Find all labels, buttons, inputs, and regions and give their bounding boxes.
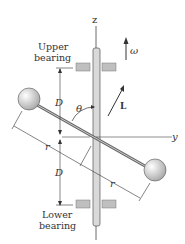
lower-D-label: D xyxy=(54,167,63,178)
lower-D-arrow-top xyxy=(58,139,62,144)
upper-bearing-label-line1: Upper xyxy=(38,41,69,52)
L-vector-arrowhead xyxy=(120,85,124,92)
upper-D-label: D xyxy=(54,97,63,108)
upper-bearing-left xyxy=(76,63,90,71)
omega-arrowhead xyxy=(124,37,129,44)
lower-bearing-label-line2: bearing xyxy=(39,220,76,231)
right-r-tick xyxy=(139,183,150,201)
right-r-label: r xyxy=(110,178,116,189)
left-r-tick xyxy=(12,111,22,129)
omega-label: ω xyxy=(130,45,138,56)
lower-sphere xyxy=(144,159,166,181)
theta-label: θ xyxy=(76,103,82,114)
y-axis-label: y xyxy=(171,131,178,142)
upper-bearing-label-line2: bearing xyxy=(34,52,71,63)
lower-bearing-right xyxy=(102,200,116,208)
L-label: L xyxy=(120,101,127,111)
upper-bearing-right xyxy=(102,63,116,71)
rotating-dumbbell-diagram: z y D D Upper bearing Lower bearing r r … xyxy=(0,0,185,244)
upper-D-arrow-top xyxy=(58,68,62,73)
z-axis-label: z xyxy=(92,14,97,25)
upper-D-arrow-bottom xyxy=(58,130,62,135)
lower-bearing-left xyxy=(76,200,90,208)
lower-bearing-label-line1: Lower xyxy=(42,209,73,220)
upper-sphere xyxy=(18,88,40,110)
rod-highlight xyxy=(30,101,152,170)
center-r-tick xyxy=(80,146,91,166)
